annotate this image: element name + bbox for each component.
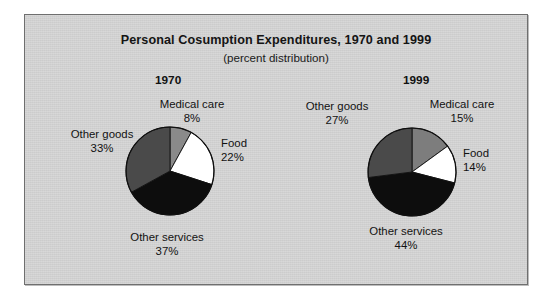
slice-label-value: 44% bbox=[351, 239, 461, 253]
slice-label-value: 8% bbox=[149, 112, 235, 126]
slice-label-name: Food bbox=[463, 147, 523, 161]
slice-label-value: 37% bbox=[121, 245, 213, 259]
slice-label-name: Other services bbox=[121, 231, 213, 245]
slice-label-1999-other-services: Other services 44% bbox=[351, 225, 461, 253]
slice-label-name: Other services bbox=[351, 225, 461, 239]
slice-label-value: 27% bbox=[291, 114, 383, 128]
slice-label-1999-food: Food 14% bbox=[463, 147, 523, 175]
pie-slice-other-goods bbox=[368, 128, 412, 178]
slice-label-value: 15% bbox=[419, 112, 505, 126]
slice-label-name: Medical care bbox=[419, 98, 505, 112]
pie-year-label-1970: 1970 bbox=[155, 73, 181, 87]
pie-group-1999: 1999 Medical care 15% Food 14% Other ser… bbox=[273, 15, 523, 286]
slice-label-value: 14% bbox=[463, 161, 523, 175]
slice-label-1999-medical-care: Medical care 15% bbox=[419, 98, 505, 126]
slice-label-name: Other goods bbox=[59, 128, 145, 142]
figure-root: Personal Cosumption Expenditures, 1970 a… bbox=[0, 0, 553, 303]
pie-year-label-1999: 1999 bbox=[403, 73, 429, 87]
pie-group-1970: 1970 Medical care 8% Food 22% Other serv… bbox=[39, 15, 289, 286]
slice-label-1999-other-goods: Other goods 27% bbox=[291, 100, 383, 128]
slice-label-name: Medical care bbox=[149, 98, 235, 112]
slice-label-name: Other goods bbox=[291, 100, 383, 114]
slice-label-1970-other-goods: Other goods 33% bbox=[59, 128, 145, 156]
slice-label-1970-other-services: Other services 37% bbox=[121, 231, 213, 259]
pie-chart-1999 bbox=[365, 125, 459, 219]
chart-panel: Personal Cosumption Expenditures, 1970 a… bbox=[24, 14, 528, 285]
slice-label-1970-food: Food 22% bbox=[221, 137, 281, 165]
slice-label-value: 33% bbox=[59, 142, 145, 156]
slice-label-value: 22% bbox=[221, 151, 281, 165]
slice-label-1970-medical-care: Medical care 8% bbox=[149, 98, 235, 126]
slice-label-name: Food bbox=[221, 137, 281, 151]
